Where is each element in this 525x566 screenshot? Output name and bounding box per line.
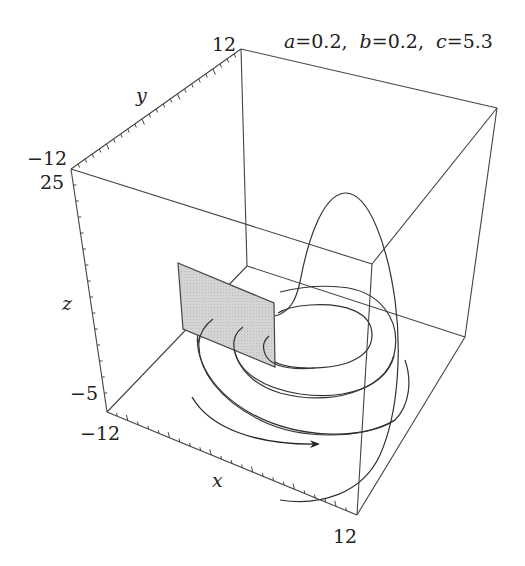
z-min-label: −5 [70, 384, 98, 403]
box-front-edges [71, 49, 497, 515]
top-right-edge [241, 49, 497, 108]
z-max-label: 25 [40, 173, 64, 192]
param-c-value: =5.3 [447, 30, 493, 52]
x-min-label: −12 [80, 424, 120, 443]
top-front-left-edge [71, 169, 372, 264]
y-axis-ticks [78, 54, 236, 168]
x-axis-label: x [212, 471, 223, 490]
left-vertical-edge [71, 169, 107, 412]
z-axis-label: z [62, 294, 72, 313]
back-vertical-edge [241, 49, 247, 266]
y-max-label: 12 [212, 35, 236, 54]
param-b-symbol: b [360, 30, 372, 52]
rossler-3d-plot [0, 0, 525, 566]
y-min-label: −12 [27, 149, 67, 168]
param-c-symbol: c [436, 30, 447, 52]
box-back-edges [107, 49, 465, 412]
parameter-annotation: a=0.2, b=0.2, c=5.3 [284, 30, 493, 52]
param-b-value: =0.2, [372, 30, 424, 52]
bottom-front-right-edge [357, 337, 465, 515]
top-back-edge [71, 49, 241, 169]
trajectory-outer-front [199, 342, 395, 435]
param-a-symbol: a [284, 30, 295, 52]
param-a-value: =0.2, [295, 30, 347, 52]
flow-direction-arrow [192, 397, 318, 444]
y-axis-label: y [136, 86, 147, 105]
back-bottom-right-edge [247, 266, 465, 337]
poincare-section-plane [178, 263, 275, 367]
x-max-label: 12 [333, 527, 357, 546]
